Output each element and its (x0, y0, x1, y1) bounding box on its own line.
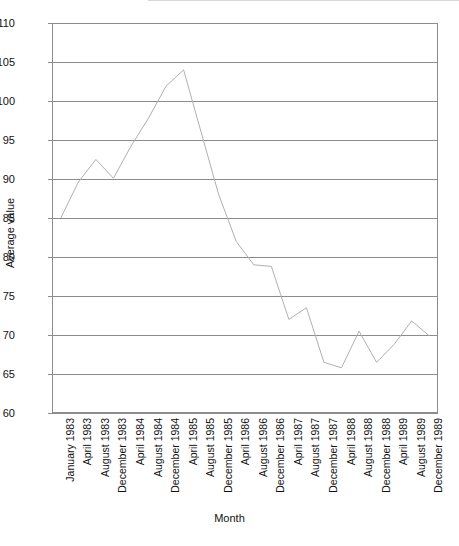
x-axis-tick-label: August 1986 (258, 418, 269, 477)
x-axis-tick-label: December 1983 (117, 418, 128, 493)
y-axis-tick-label: 110 (0, 18, 15, 29)
y-axis-tick-label: 90 (3, 174, 15, 185)
x-axis-tick-label: April 1985 (188, 418, 199, 465)
x-axis-tick-label: April 1989 (398, 418, 409, 465)
x-axis-tick-label: August 1989 (416, 418, 427, 477)
y-axis-tick-label: 100 (0, 96, 15, 107)
y-axis-tick-mark (48, 413, 52, 414)
x-axis-tick-label: April 1984 (135, 418, 146, 465)
x-axis-tick-label: August 1988 (363, 418, 374, 477)
header-divider (148, 0, 459, 1)
x-axis-tick-label: December 1986 (275, 418, 286, 493)
y-axis-tick-label: 105 (0, 57, 15, 68)
x-axis-tick-label: April 1983 (82, 418, 93, 465)
y-axis-title: Average value (4, 198, 16, 268)
x-axis-tick-label: April 1987 (293, 418, 304, 465)
y-axis-tick-label: 75 (3, 291, 15, 302)
gridline (52, 413, 438, 414)
x-axis-tick-label: August 1985 (205, 418, 216, 477)
x-axis-tick-label: August 1983 (100, 418, 111, 477)
x-axis-tick-label: January 1983 (65, 418, 76, 482)
y-axis-tick-label: 95 (3, 135, 15, 146)
x-axis-tick-label: August 1987 (310, 418, 321, 477)
y-axis-tick-label: 70 (3, 330, 15, 341)
series-line-average-value (52, 23, 438, 413)
x-axis-tick-label: April 1988 (346, 418, 357, 465)
x-axis-tick-label: December 1984 (170, 418, 181, 493)
x-axis-tick-label: December 1985 (223, 418, 234, 493)
x-axis-title: Month (0, 512, 459, 524)
x-axis-tick-label: December 1989 (433, 418, 444, 493)
series-polyline (61, 70, 429, 368)
line-chart: 6065707580859095100105110 January 1983Ap… (0, 0, 459, 546)
y-axis-tick-label: 65 (3, 369, 15, 380)
x-axis-tick-label: August 1984 (153, 418, 164, 477)
x-axis-tick-label: December 1988 (381, 418, 392, 493)
x-axis-tick-label: December 1987 (328, 418, 339, 493)
x-axis-tick-label: April 1986 (240, 418, 251, 465)
y-axis-tick-label: 60 (3, 408, 15, 419)
